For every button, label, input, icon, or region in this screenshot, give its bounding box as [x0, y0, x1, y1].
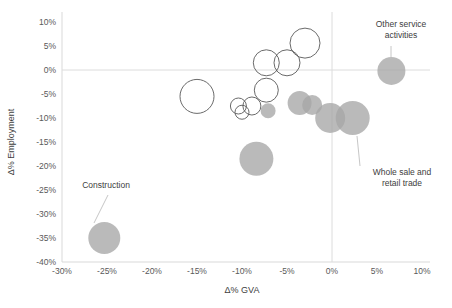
x-tick-label: -15% [187, 266, 207, 276]
y-tick-label: -25% [36, 185, 56, 195]
x-tick-label: 5% [371, 266, 384, 276]
construction-label: Construction [82, 180, 130, 190]
bubble-point[interactable] [253, 50, 279, 76]
y-tick-label: -10% [36, 113, 56, 123]
x-tick-label: -10% [232, 266, 252, 276]
x-tick-label: 0% [326, 266, 339, 276]
y-tick-label: 5% [44, 41, 57, 51]
y-tick-label: -30% [36, 209, 56, 219]
annotation-leader-line [94, 195, 108, 223]
bubble-point[interactable] [180, 79, 214, 113]
y-tick-label: 10% [39, 17, 56, 27]
y-tick-label: -15% [36, 137, 56, 147]
x-axis-tick-labels: -30%-25%-20%-15%-10%-5%0%5%10% [52, 266, 431, 276]
x-axis-title: Δ% GVA [225, 285, 260, 295]
x-tick-label: -5% [279, 266, 295, 276]
bubble-point[interactable] [377, 57, 405, 85]
y-tick-label: -40% [36, 257, 56, 267]
bubble-point[interactable] [274, 50, 300, 76]
y-axis-title: Δ% Employment [6, 108, 16, 175]
x-tick-label: -20% [142, 266, 162, 276]
bubble-point[interactable] [239, 142, 273, 176]
y-tick-label: -5% [41, 89, 57, 99]
bubble-point[interactable] [290, 28, 320, 58]
y-tick-label: -35% [36, 233, 56, 243]
bubble-point[interactable] [254, 78, 278, 102]
y-tick-label: 0% [44, 65, 57, 75]
bubble-point[interactable] [235, 105, 249, 119]
bubble-point[interactable] [336, 101, 370, 135]
y-axis-tick-labels: 10%5%0%-5%-10%-15%-20%-25%-30%-35%-40% [36, 17, 56, 267]
x-tick-label: -25% [97, 266, 117, 276]
plot-frame [62, 12, 430, 262]
x-tick-label: 10% [413, 266, 430, 276]
bubble-point[interactable] [88, 222, 120, 254]
bubble-point[interactable] [261, 103, 276, 118]
chart-canvas: ConstructionOther serviceactivitiesWhole… [0, 0, 452, 308]
wholesale-label: Whole sale andretail trade [373, 167, 432, 188]
annotation-leader-line [357, 136, 360, 166]
y-tick-label: -20% [36, 161, 56, 171]
x-tick-label: -30% [52, 266, 72, 276]
zero-reference-lines [62, 12, 430, 262]
annotation-leader-lines [94, 46, 391, 223]
bubble-chart: ConstructionOther serviceactivitiesWhole… [0, 0, 452, 308]
other-service-label: Other serviceactivities [376, 19, 427, 40]
